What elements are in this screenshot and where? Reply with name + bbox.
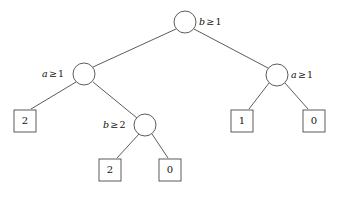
node-root-threshold: 1 <box>215 16 221 27</box>
edge-right-leafright <box>285 83 308 109</box>
node-root-label: b≥1 <box>199 17 222 27</box>
edge-right-leafleft <box>249 83 269 109</box>
node-mid-circle <box>134 114 156 136</box>
edge-left-mid <box>93 82 137 118</box>
edge-mid-leafright <box>152 134 168 158</box>
node-right-operator: ≥ <box>297 69 307 80</box>
edge-root-left <box>93 29 176 67</box>
edge-left-leafleft <box>31 82 76 109</box>
node-left-variable: a <box>42 68 48 79</box>
node-right-label: a≥1 <box>291 70 313 80</box>
node-left-circle <box>73 63 95 85</box>
node-left-label: a≥1 <box>42 69 64 79</box>
leaf-mid-right-value: 0 <box>159 165 181 175</box>
node-mid-operator: ≥ <box>109 119 119 130</box>
node-mid-threshold: 2 <box>119 119 125 130</box>
edge-mid-leafleft <box>117 134 139 158</box>
node-left-threshold: 1 <box>58 68 64 79</box>
node-left-operator: ≥ <box>48 68 58 79</box>
decision-tree-diagram: b≥1 a≥1 a≥1 b≥2 2 2 0 1 0 <box>0 0 342 200</box>
node-right-variable: a <box>291 69 297 80</box>
leaf-right-right-value: 0 <box>303 116 325 126</box>
edge-root-right <box>194 29 268 68</box>
leaf-mid-left-value: 2 <box>99 165 121 175</box>
node-root-circle <box>174 11 196 33</box>
node-right-threshold: 1 <box>307 69 313 80</box>
leaf-right-left-value: 1 <box>231 116 253 126</box>
node-root-operator: ≥ <box>205 16 215 27</box>
node-right-circle <box>266 64 288 86</box>
node-mid-label: b≥2 <box>103 120 126 130</box>
leaf-left-value: 2 <box>14 116 36 126</box>
